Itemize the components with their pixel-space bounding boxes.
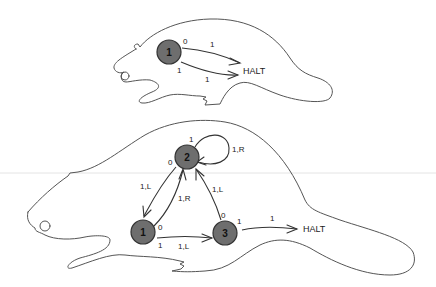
label-s1-to-s3: 1,L [178, 242, 190, 251]
edge-3-to-2 [196, 169, 221, 220]
top-beaver-nose [121, 72, 129, 80]
label-s3-to-s2: 1,L [212, 185, 224, 194]
bottom-beaver-nose [40, 221, 50, 231]
arrow-head-1-to-2 [179, 169, 186, 180]
edge-1-to-3 [157, 237, 212, 239]
label-s2-read0: 0 [168, 158, 173, 167]
top-edge-read1 [181, 62, 238, 75]
label-s3-read1: 1 [237, 217, 242, 226]
edge-2-to-1 [144, 167, 176, 216]
diagram-canvas: 1 0 1 1 1 HALT 2 1 3 [0, 0, 436, 287]
top-halt-label: HALT [243, 66, 266, 76]
top-label-read1: 1 [177, 66, 182, 75]
top-label-read0: 0 [183, 37, 188, 46]
bottom-halt-label: HALT [303, 224, 326, 234]
bottom-beaver [27, 120, 414, 275]
label-s1-to-s2: 1,R [178, 194, 191, 203]
label-s2-loop: 1,R [232, 145, 245, 154]
label-s1-read0: 0 [158, 223, 163, 232]
top-edge-read0 [182, 48, 240, 63]
label-s3-read0: 0 [221, 211, 226, 220]
top-state-1-label: 1 [166, 47, 172, 58]
label-s2-to-s1: 1,L [140, 182, 152, 191]
state-1-label: 1 [140, 227, 146, 238]
state-2: 2 [175, 145, 199, 169]
top-beaver [114, 19, 332, 105]
top-machine-edges [181, 48, 240, 79]
state-3: 3 [213, 221, 237, 245]
label-s2-read1: 1 [189, 135, 194, 144]
edge-3-to-halt [242, 227, 297, 230]
label-s3-to-halt: 1 [270, 214, 275, 223]
top-label-write-top: 1 [210, 40, 215, 49]
bottom-beaver-outline [27, 120, 414, 275]
top-beaver-outline [114, 19, 332, 105]
state-1: 1 [131, 220, 155, 244]
top-label-write-bottom: 1 [205, 75, 210, 84]
state-2-label: 2 [184, 152, 190, 163]
label-s1-read1: 1 [158, 241, 163, 250]
top-state-1: 1 [157, 40, 181, 64]
state-3-label: 3 [222, 228, 228, 239]
